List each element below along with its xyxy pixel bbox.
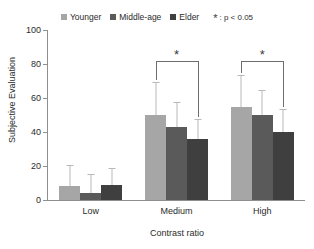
y-axis-tick-label: 40 — [31, 127, 41, 137]
y-axis-tick-mark — [43, 200, 47, 201]
y-axis-tick-label: 0 — [36, 195, 41, 205]
chart-legend: Younger Middle-age Elder * : p < 0.05 — [0, 9, 314, 25]
y-axis-tick-label: 80 — [31, 59, 41, 69]
y-axis-tick-label: 20 — [31, 161, 41, 171]
bracket-left-leg — [241, 61, 242, 73]
significance-note: * : p < 0.05 — [213, 13, 253, 22]
plot-area: 020406080100 ** — [47, 30, 305, 202]
x-axis-tick-label-low: Low — [48, 206, 134, 216]
significance-bracket-high: * — [47, 30, 305, 200]
significance-asterisk: * — [260, 50, 265, 60]
x-axis-tick-label-medium: Medium — [134, 206, 220, 216]
y-axis-title: Subjective Evaluation — [4, 0, 20, 200]
x-axis-title: Contrast ratio — [47, 228, 307, 238]
y-axis-title-text: Subjective Evaluation — [7, 57, 17, 143]
x-axis-tick-label-high: High — [219, 206, 305, 216]
legend-label-younger: Younger — [70, 13, 101, 22]
legend-label-middle-age: Middle-age — [119, 13, 161, 22]
bar-chart: Younger Middle-age Elder * : p < 0.05 Su… — [0, 0, 314, 249]
x-axis-line — [47, 200, 305, 201]
legend-item-middle-age: Middle-age — [110, 13, 161, 22]
legend-label-elder: Elder — [179, 13, 199, 22]
bracket-right-leg — [283, 61, 284, 107]
significance-note-text: : p < 0.05 — [219, 13, 253, 22]
legend-item-younger: Younger — [61, 13, 101, 22]
legend-swatch-middle-age — [110, 14, 116, 20]
y-axis-tick-label: 100 — [26, 25, 41, 35]
legend-swatch-younger — [61, 14, 67, 20]
legend-swatch-elder — [170, 14, 176, 20]
y-axis-tick-label: 60 — [31, 93, 41, 103]
legend-item-elder: Elder — [170, 13, 199, 22]
asterisk-icon: * — [213, 15, 217, 22]
x-axis-tick-labels: LowMediumHigh — [48, 206, 305, 216]
